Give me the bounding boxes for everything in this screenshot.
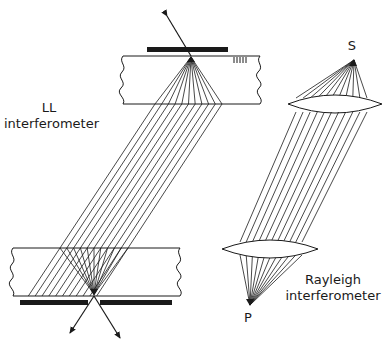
ray-line [277, 112, 338, 242]
ray-line [97, 248, 128, 296]
ray-line [191, 57, 209, 104]
ray-line [121, 104, 215, 248]
ray-line [63, 248, 95, 296]
ray-line [155, 57, 191, 104]
rayleigh-upper-lens [288, 95, 382, 113]
ray-line [296, 112, 360, 242]
rayleigh-lower-lens [222, 240, 318, 258]
ray-line [290, 112, 353, 242]
ray-line [250, 255, 271, 305]
rayleigh-parallel-beams [240, 112, 367, 242]
ray-line [49, 248, 81, 296]
ll-label-line1: LL [4, 100, 94, 116]
ray-line [101, 104, 195, 248]
ray-line [168, 57, 191, 104]
ray-line [310, 60, 354, 98]
bottom-focus-marker [90, 289, 98, 296]
ll-interferometer-label: LL interferometer [4, 100, 94, 132]
ray-line [191, 57, 222, 104]
ray-line [28, 248, 60, 296]
ll-top-slab [119, 56, 261, 104]
ray-line [302, 112, 367, 242]
rayleigh-label-line1: Rayleigh [283, 272, 383, 288]
rayleigh-label-line2: interferometer [283, 288, 383, 304]
source-label-s: S [342, 38, 362, 54]
left-break-line [119, 56, 124, 104]
ll-top-fan [155, 57, 222, 104]
ray-line [87, 104, 182, 248]
ray-line [317, 60, 354, 98]
ll-bottom-bar-right [100, 300, 172, 305]
ll-bottom-fan [28, 248, 128, 296]
ll-bottom-bar-left [20, 300, 88, 305]
grating-ticks-icon [234, 57, 246, 63]
ll-label-line2: interferometer [4, 116, 94, 132]
ray-line [94, 104, 189, 248]
ray-line [35, 248, 67, 296]
ray-line [128, 104, 222, 248]
ray-line [42, 248, 74, 296]
ray-line [191, 57, 202, 104]
right-break-line [256, 56, 261, 104]
ray-line [108, 104, 202, 248]
right-break-line [176, 248, 181, 296]
rayleigh-interferometer-label: Rayleigh interferometer [283, 272, 383, 304]
ray-line [250, 255, 283, 305]
ray-line [296, 60, 354, 98]
left-break-line [9, 248, 14, 296]
ray-line [283, 112, 345, 242]
ray-line [114, 104, 208, 248]
point-label-p: P [238, 310, 258, 326]
